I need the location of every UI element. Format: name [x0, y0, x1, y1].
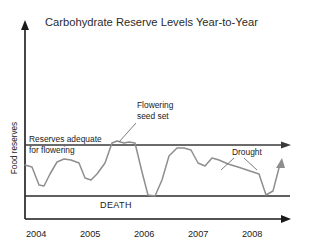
x-tick-label-2004: 2004	[26, 229, 46, 239]
data-line-arrowhead	[276, 158, 285, 168]
death-threshold-label: DEATH	[100, 200, 132, 210]
x-axis-arrowhead	[281, 215, 291, 223]
death-threshold-group: DEATH	[25, 196, 290, 210]
drought-annotation-leader-right	[244, 158, 257, 170]
x-axis-group: 2004 2005 2006 2007 2008	[25, 215, 291, 239]
flowering-annotation-leader	[119, 123, 136, 142]
x-tick-label-2006: 2006	[134, 229, 154, 239]
drought-annotation-label: Drought	[232, 147, 262, 157]
flowering-threshold-arrowhead	[281, 142, 291, 149]
y-axis-arrowhead	[21, 20, 29, 30]
x-tick-label-2007: 2007	[188, 229, 208, 239]
carbohydrate-reserve-chart: Carbohydrate Reserve Levels Year-to-Year…	[0, 0, 314, 246]
y-axis-label: Food reserves	[10, 122, 19, 174]
chart-container: Carbohydrate Reserve Levels Year-to-Year…	[0, 0, 314, 246]
flowering-seed-set-annotation: Flowering seed set	[119, 100, 174, 142]
drought-annotation-leader-left	[221, 158, 234, 170]
drought-annotation: Drought	[221, 147, 262, 170]
flowering-threshold-label-line2: for flowering	[29, 145, 75, 155]
flowering-annotation-line1: Flowering	[137, 100, 174, 110]
flowering-annotation-line2: seed set	[137, 111, 169, 121]
y-axis-group: Food reserves	[10, 20, 29, 219]
x-tick-label-2008: 2008	[242, 229, 262, 239]
x-tick-label-2005: 2005	[80, 229, 100, 239]
chart-title: Carbohydrate Reserve Levels Year-to-Year	[45, 16, 258, 28]
flowering-threshold-label-line1: Reserves adequate	[29, 134, 102, 144]
